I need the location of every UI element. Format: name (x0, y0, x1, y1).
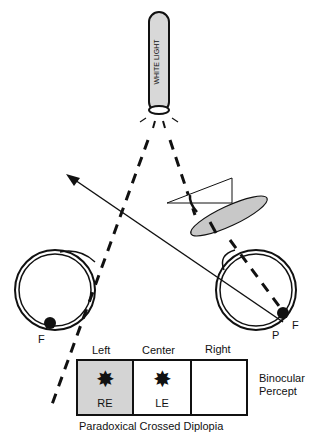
light-rays-icon (140, 118, 178, 128)
arrowhead-icon (66, 174, 80, 186)
left-fovea-label: F (38, 334, 45, 345)
star-icon: ✸ (134, 367, 190, 391)
white-light-tube: WHITE LIGHT (149, 12, 169, 114)
right-point-label: P (272, 330, 279, 341)
left-fovea-star (44, 317, 56, 329)
percept-cell-center: ✸ LE (134, 361, 192, 414)
caption: Paradoxical Crossed Diplopia (79, 421, 223, 432)
le-label: LE (134, 397, 190, 409)
column-right-label: Right (205, 344, 231, 355)
star-icon: ✸ (78, 367, 132, 391)
left-eye-icon (15, 250, 95, 330)
right-fovea-label: F (292, 320, 299, 331)
binocular-label: Binocular (259, 373, 305, 384)
percept-label: Percept (259, 386, 297, 397)
prism-icon (167, 178, 232, 203)
column-center-label: Center (142, 345, 175, 356)
right-fovea-star (277, 307, 289, 319)
percept-cell-right (192, 361, 248, 414)
column-left-label: Left (92, 345, 110, 356)
svg-text:WHITE LIGHT: WHITE LIGHT (153, 39, 160, 85)
re-label: RE (78, 397, 132, 409)
percept-box: ✸ RE ✸ LE (76, 359, 248, 416)
percept-cell-left: ✸ RE (78, 361, 134, 414)
